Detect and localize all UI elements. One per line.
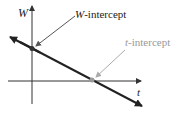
t-axis-label: t (137, 86, 141, 98)
linear-graph-diagram: W t W-intercept t-intercept (0, 0, 182, 121)
linear-function-line-left-arrow (10, 37, 40, 53)
w-intercept-label: W-intercept (75, 8, 126, 20)
t-intercept-label-text: -intercept (128, 36, 170, 48)
t-intercept-point (90, 78, 95, 83)
t-intercept-pointer-arrow (96, 50, 125, 77)
w-intercept-label-text: -intercept (84, 8, 126, 20)
w-axis-label: W (18, 6, 29, 20)
w-intercept-point (30, 46, 35, 51)
t-intercept-label: t-intercept (125, 36, 170, 48)
w-intercept-pointer-arrow (36, 16, 75, 46)
